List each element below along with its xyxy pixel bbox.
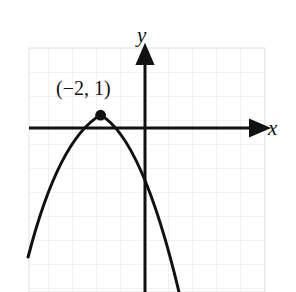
graph-canvas: (−2, 1) y x bbox=[0, 0, 296, 292]
parabola-figure: (−2, 1) y x bbox=[0, 0, 296, 292]
vertex-point-marker bbox=[95, 110, 106, 121]
x-axis-label: x bbox=[267, 116, 278, 140]
y-axis-label: y bbox=[135, 23, 147, 47]
vertex-label: (−2, 1) bbox=[56, 77, 111, 100]
